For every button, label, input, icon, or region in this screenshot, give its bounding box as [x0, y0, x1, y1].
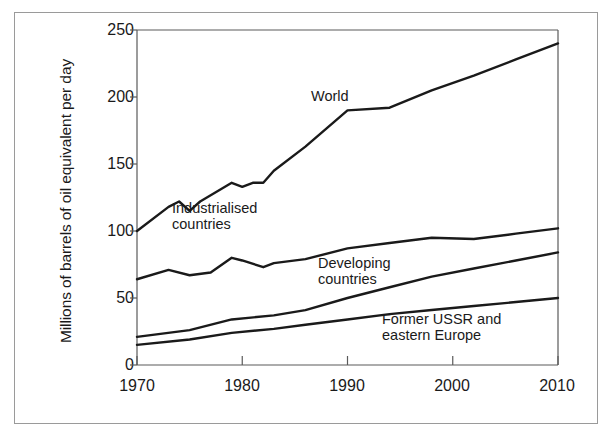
- series-line-industrialised-countries: [137, 228, 558, 279]
- series-line-former-ussr-and-eastern-europe: [137, 298, 558, 345]
- chart-figure: Millions of barrels of oil equivalent pe…: [0, 0, 612, 438]
- plot-svg: [0, 0, 612, 438]
- series-group: [137, 43, 558, 345]
- axes-group: [130, 30, 558, 365]
- series-line-world: [137, 43, 558, 231]
- series-line-developing-countries: [137, 252, 558, 336]
